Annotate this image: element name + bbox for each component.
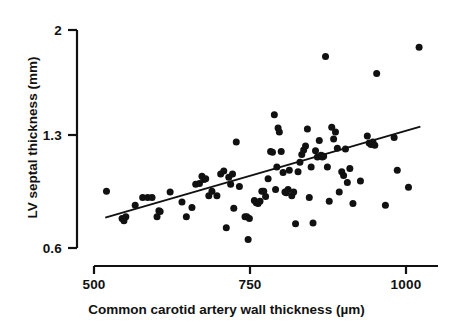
data-point: [157, 208, 164, 215]
y-axis-title: LV septal thickness (mm): [25, 28, 40, 248]
data-point: [278, 148, 285, 155]
data-point: [405, 184, 412, 191]
data-point: [371, 142, 378, 149]
data-point: [245, 236, 252, 243]
data-point: [213, 192, 220, 199]
data-point: [340, 172, 347, 179]
data-point: [304, 125, 311, 132]
data-point: [122, 213, 129, 220]
x-tick-label-1000: 1000: [391, 277, 422, 292]
data-point: [322, 53, 329, 60]
data-point: [326, 198, 333, 205]
data-point: [312, 147, 319, 154]
data-point: [324, 164, 331, 171]
plot-canvas: [0, 0, 453, 331]
data-point: [349, 200, 356, 207]
data-point: [357, 178, 364, 185]
data-point: [346, 165, 353, 172]
scatter-plot-figure: 2 1.3 0.6 500 750 1000 Common carotid ar…: [0, 0, 453, 331]
data-point: [230, 205, 237, 212]
data-point: [273, 164, 280, 171]
data-point: [364, 132, 371, 139]
x-tick-label-750: 750: [238, 277, 261, 292]
data-point: [344, 179, 351, 186]
data-point: [223, 224, 230, 231]
data-point: [382, 202, 389, 209]
data-point: [246, 215, 253, 222]
data-point: [276, 128, 283, 135]
data-point: [308, 164, 315, 171]
data-point: [269, 149, 276, 156]
y-axis-ticks: [68, 30, 77, 248]
data-point: [229, 171, 236, 178]
x-tick-label-500: 500: [82, 277, 105, 292]
data-point: [286, 167, 293, 174]
data-point: [334, 145, 341, 152]
data-point: [265, 175, 272, 182]
data-point: [132, 202, 139, 209]
data-point: [149, 194, 156, 201]
axes: [68, 30, 438, 274]
data-point: [391, 134, 398, 141]
data-point: [306, 194, 313, 201]
data-point: [290, 188, 297, 195]
data-point: [271, 111, 278, 118]
data-point: [272, 186, 279, 193]
data-point: [302, 143, 309, 150]
data-point: [330, 136, 337, 143]
data-point: [316, 137, 323, 144]
data-point: [167, 188, 174, 195]
data-point: [183, 213, 190, 220]
data-point: [416, 44, 423, 51]
x-axis-ticks: [94, 266, 406, 274]
data-point: [296, 159, 303, 166]
data-point: [310, 220, 317, 227]
data-point: [236, 183, 243, 190]
data-point: [373, 70, 380, 77]
data-point: [280, 169, 287, 176]
data-point: [332, 128, 339, 135]
data-point: [178, 199, 185, 206]
data-point: [336, 188, 343, 195]
data-point: [394, 167, 401, 174]
data-point: [103, 188, 110, 195]
data-points: [103, 44, 423, 243]
data-point: [220, 167, 227, 174]
data-point: [295, 168, 302, 175]
data-point: [320, 153, 327, 160]
data-point: [202, 175, 209, 182]
data-point: [292, 220, 299, 227]
data-point: [188, 204, 195, 211]
data-point: [342, 146, 349, 153]
data-point: [262, 193, 269, 200]
data-point: [256, 198, 263, 205]
x-axis-title: Common carotid artery wall thickness (µm…: [0, 302, 453, 317]
data-point: [227, 181, 234, 188]
data-point: [233, 139, 240, 146]
